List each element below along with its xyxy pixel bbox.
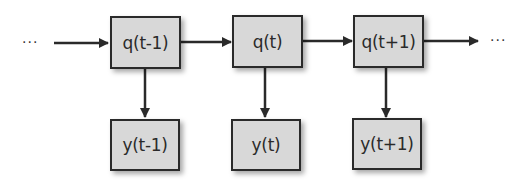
state-box-t-minus-1: q(t-1) [110, 16, 181, 69]
ellipsis-right: ··· [490, 32, 506, 48]
output-label: y(t-1) [122, 135, 167, 155]
output-box-t: y(t) [231, 119, 301, 171]
output-box-t-minus-1: y(t-1) [110, 119, 180, 171]
output-box-t-plus-1: y(t+1) [352, 118, 422, 170]
state-box-t-plus-1: q(t+1) [353, 15, 424, 68]
state-label: q(t+1) [362, 32, 416, 52]
state-label: q(t-1) [123, 33, 169, 53]
state-label: q(t) [253, 32, 283, 52]
output-label: y(t+1) [360, 134, 413, 154]
state-box-t: q(t) [232, 15, 303, 68]
output-label: y(t) [252, 135, 281, 155]
ellipsis-left: ··· [22, 34, 38, 50]
